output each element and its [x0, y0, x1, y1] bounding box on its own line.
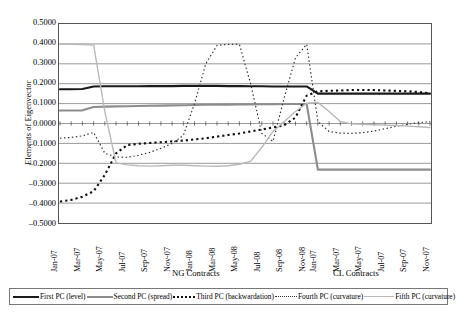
legend-swatch-icon — [87, 293, 113, 301]
group-caption-ng: NG Contracts — [172, 268, 220, 278]
x-tick-label: Jan-07 — [50, 250, 59, 272]
x-tick-label: Jul-08 — [253, 252, 262, 272]
legend-swatch-icon — [173, 293, 195, 301]
x-tick-label: May-08 — [230, 246, 239, 272]
x-tick-label: Nov-07 — [163, 247, 172, 272]
y-tick-label: 0.3000 — [10, 59, 56, 67]
y-axis-tick-labels: 0.50000.40000.30000.20000.10000.0000–0.1… — [8, 0, 56, 314]
legend-swatch-icon — [13, 293, 39, 301]
legend-label: Second PC (spread) — [113, 292, 174, 301]
y-tick-label: 0.4000 — [10, 39, 56, 47]
chart-legend: First PC (level)Second PC (spread)Third … — [9, 288, 448, 305]
y-tick-label: 0.0000 — [10, 120, 56, 128]
x-tick-label: Sep-07 — [140, 249, 149, 272]
group-caption-cl: CL Contracts — [333, 268, 379, 278]
y-tick-label: –0.4000 — [10, 200, 56, 208]
y-tick-label: 0.2000 — [10, 79, 56, 87]
legend-item[interactable]: Second PC (spread) — [87, 292, 174, 301]
y-tick-label: –0.5000 — [10, 220, 56, 228]
y-tick-label: 0.5000 — [10, 19, 56, 27]
x-tick-label: Nov-08 — [298, 247, 307, 272]
legend-item[interactable]: Third PC (backwardation) — [173, 292, 275, 301]
legend-swatch-icon — [364, 293, 394, 301]
legend-item[interactable]: Fourth PC (curvature) — [275, 292, 364, 301]
x-tick-label: May-07 — [95, 246, 104, 272]
chart-figure: Elements of Eigenvector 0.50000.40000.30… — [0, 0, 457, 314]
legend-label: Third PC (backwardation) — [195, 292, 275, 301]
x-tick-label: Sep-08 — [275, 249, 284, 272]
legend-item[interactable]: Fifth PC (curvature) — [364, 292, 456, 301]
legend-swatch-icon — [275, 293, 297, 301]
legend-label: Fourth PC (curvature) — [297, 292, 364, 301]
x-axis-tick-labels: Jan-07Mar-07May-07Jul-07Sep-07Nov-07Jan-… — [58, 226, 432, 272]
x-tick-label: Mar-07 — [73, 248, 82, 272]
y-tick-label: –0.3000 — [10, 180, 56, 188]
y-tick-label: 0.1000 — [10, 99, 56, 107]
plot-svg — [59, 24, 431, 223]
legend-label: First PC (level) — [39, 292, 87, 301]
legend-label: Fifth PC (curvature) — [394, 292, 456, 301]
y-tick-label: –0.1000 — [10, 140, 56, 148]
series-line — [60, 44, 430, 157]
x-tick-label: Nov-07 — [422, 247, 431, 272]
x-tick-label: Jan-07 — [309, 250, 318, 272]
y-tick-label: –0.2000 — [10, 160, 56, 168]
x-tick-label: Sep-07 — [399, 249, 408, 272]
plot-area — [58, 23, 432, 224]
legend-item[interactable]: First PC (level) — [13, 292, 87, 301]
x-tick-label: Jul-07 — [118, 252, 127, 272]
